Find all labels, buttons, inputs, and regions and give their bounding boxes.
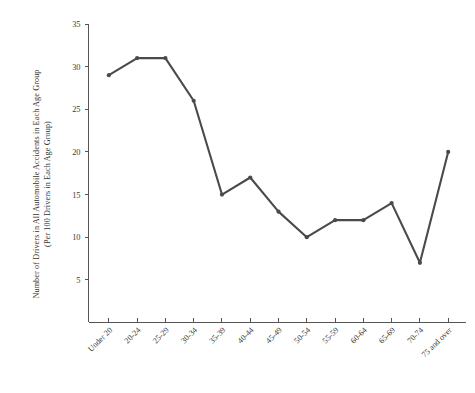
y-tick-label: 20	[72, 148, 80, 157]
data-point	[390, 201, 394, 205]
x-tick-label: 45-49	[264, 326, 284, 346]
data-point	[192, 99, 196, 103]
x-tick-label: 70-74	[405, 326, 425, 346]
y-tick-label: 35	[72, 20, 80, 29]
y-axis-ticks: 5101520253035	[72, 20, 88, 285]
y-tick-label: 30	[72, 63, 80, 72]
x-tick-label: 35-39	[208, 326, 228, 346]
x-tick-label: 30-34	[179, 326, 199, 346]
data-point	[361, 218, 365, 222]
y-tick-label: 5	[76, 276, 80, 285]
data-point	[220, 192, 224, 196]
x-tick-label: 60-64	[349, 326, 369, 346]
x-tick-label: Under 20	[86, 326, 114, 354]
x-tick-label: 50-54	[292, 326, 312, 346]
plot-area: 5101520253035 Under 2020-2425-2930-3435-…	[0, 0, 475, 393]
x-tick-label: 40-44	[236, 326, 256, 346]
data-point	[446, 150, 450, 154]
y-tick-label: 10	[72, 233, 80, 242]
line-chart: Number of Drivers in All Automobile Acci…	[0, 0, 475, 393]
data-point	[276, 210, 280, 214]
data-point	[418, 261, 422, 265]
y-tick-label: 25	[72, 105, 80, 114]
data-point-markers	[107, 56, 451, 265]
x-axis-ticks: Under 2020-2425-2930-3435-3940-4445-4950…	[86, 318, 454, 360]
data-point	[333, 218, 337, 222]
x-tick-label: 55-59	[321, 326, 341, 346]
x-tick-label: 20-24	[123, 326, 143, 346]
data-point	[135, 56, 139, 60]
data-point	[107, 73, 111, 77]
data-point	[248, 175, 252, 179]
x-tick-label: 75 and over	[420, 325, 454, 359]
data-series-line	[109, 58, 448, 263]
x-tick-label: 65-69	[377, 326, 397, 346]
data-point	[305, 235, 309, 239]
data-point	[163, 56, 167, 60]
x-tick-label: 25-29	[151, 326, 171, 346]
y-tick-label: 15	[72, 191, 80, 200]
